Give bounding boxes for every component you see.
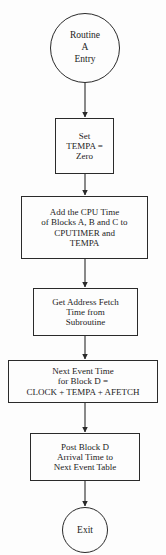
node-text-line: A [82, 42, 89, 54]
node-text-line: Zero [76, 151, 93, 161]
node-text-line: Get Address Fetch [52, 297, 119, 307]
node-text-line: Time from [66, 307, 104, 317]
node-text-line: Add the CPU Time [50, 207, 119, 217]
node-routine-a-entry: Routine A Entry [50, 13, 120, 83]
node-text-line: Entry [74, 54, 95, 66]
node-text-line: Set [79, 131, 91, 141]
node-text-line: Arrival Time to [57, 452, 113, 462]
node-text-line: Subroutine [66, 317, 106, 327]
node-post-block-d: Post Block D Arrival Time to Next Event … [30, 433, 140, 481]
node-get-address-fetch: Get Address Fetch Time from Subroutine [33, 288, 138, 336]
node-text-line: CPUTIMER and [54, 228, 115, 238]
node-text-line: Next Event Table [54, 462, 117, 472]
node-next-event-time: Next Event Time for Block D = CLOCK + TE… [8, 360, 158, 403]
node-text-line: Routine [70, 30, 100, 42]
node-add-cpu-time: Add the CPU Time of Blocks A, B and C to… [21, 196, 148, 259]
node-text-line: Exit [77, 525, 93, 536]
node-text-line: of Blocks A, B and C to [41, 217, 127, 227]
node-text-line: Post Block D [61, 442, 109, 452]
node-exit: Exit [62, 507, 108, 553]
node-text-line: Next Event Time [52, 366, 114, 376]
node-text-line: TEMPA [70, 238, 100, 248]
node-text-line: TEMPA = [66, 141, 103, 151]
node-set-tempa: Set TEMPA = Zero [55, 118, 114, 174]
node-text-line: CLOCK + TEMPA + AFETCH [26, 387, 139, 397]
node-text-line: for Block D = [58, 376, 108, 386]
